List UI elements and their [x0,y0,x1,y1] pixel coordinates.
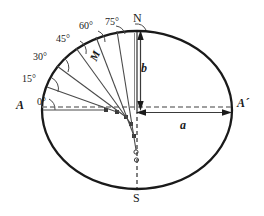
angle-label-15deg: 15° [22,74,36,84]
equator-right-label: A´ [237,97,249,109]
angle-label-75deg: 75° [105,17,119,27]
ray-75deg [117,31,136,150]
semi-major-axis-label: a [180,119,186,131]
semi-minor-axis-label: b [141,62,147,74]
ray-30deg [57,66,126,117]
angle-label-45deg: 45° [56,34,70,44]
angle-arc-0deg [49,99,55,110]
angle-label-30deg: 30° [33,52,47,62]
dimension-b-arrow-down [137,101,143,111]
south-pole-label: S [133,192,140,204]
angle-label-60deg: 60° [79,21,93,31]
north-pole-label: N [133,12,142,24]
dimension-a-arrow-right [222,109,232,115]
earth-ellipse-diagram [0,0,264,216]
equator-left-label: A [16,99,24,111]
ray-60deg [96,37,134,136]
angle-label-0deg: 0° [37,97,46,107]
